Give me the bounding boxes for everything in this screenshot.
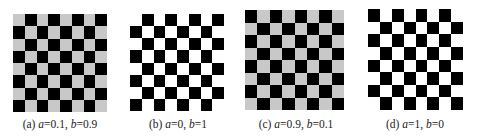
board-cell [392,85,404,98]
board-cell [439,60,451,73]
board-cell [48,26,60,38]
board-cell [416,72,428,85]
board-cell [270,60,282,73]
board-cell [212,75,224,87]
board-cell [201,87,213,99]
board-cell [201,63,213,75]
board-cell [177,14,189,26]
board-cell [332,23,344,36]
board-cell [332,98,344,111]
board-cell [72,75,84,87]
board-cell [392,22,404,35]
caption-d: (d) a=1, b=0 [365,118,465,130]
board-cell [295,10,307,23]
board-cell [307,73,319,86]
board-cell [368,72,380,85]
board-cell [48,88,60,100]
board-cell [404,34,416,47]
board-cell [416,97,428,110]
board-cell [37,14,49,26]
board-cell [13,14,25,26]
board-cell [319,23,331,36]
board-cell [295,98,307,111]
board-cell [451,60,463,73]
board-cell [368,47,380,60]
board-cell [177,87,189,99]
board-cell [154,63,166,75]
board-cell [154,87,166,99]
board-cell [95,14,107,26]
b-value: =0.1 [312,118,333,130]
board-cell [451,72,463,85]
board-cell [95,100,107,112]
board-cell [319,10,331,23]
board-cell [212,99,224,111]
board-cell [439,97,451,110]
board-cell [257,48,269,61]
board-cell [439,22,451,35]
board-cell [201,38,213,50]
board-cell [307,85,319,98]
board-cell [189,75,201,87]
a-value: =0.9, [280,118,307,130]
board-cell [177,26,189,38]
board-cell [201,99,213,111]
board-cell [212,14,224,26]
board-cell [307,98,319,111]
board-cell [380,85,392,98]
board-cell [380,9,392,22]
board-cell [270,23,282,36]
board-cell [270,35,282,48]
board-cell [416,47,428,60]
board-cell [25,63,37,75]
board-cell [257,60,269,73]
board-cell [332,60,344,73]
board-cell [245,98,257,111]
board-cell [257,85,269,98]
board-cell [295,73,307,86]
board-cell [37,100,49,112]
board-cell [165,50,177,62]
board-cell [368,34,380,47]
board-cell [245,48,257,61]
board-cell [72,88,84,100]
board-cell [332,48,344,61]
board-cell [37,39,49,51]
board-cell [13,100,25,112]
board-cell [439,9,451,22]
board-cell [130,38,142,50]
board-cell [72,100,84,112]
board-cell [245,85,257,98]
board-cell [84,39,96,51]
b-value: =1 [195,118,207,130]
board-cell [154,50,166,62]
board-cell [25,88,37,100]
board-cell [332,85,344,98]
board-cell [451,47,463,60]
board-cell [295,35,307,48]
board-cell [282,48,294,61]
board-cell [404,22,416,35]
board-cell [392,34,404,47]
caption-b: (b) a=0, b=1 [128,118,228,130]
board-cell [154,14,166,26]
board-cell [37,51,49,63]
board-cell [257,35,269,48]
board-cell [257,73,269,86]
board-cell [307,48,319,61]
b-value: =0.9 [76,118,97,130]
a-value: =1, [408,118,426,130]
board-cell [282,73,294,86]
board-cell [295,60,307,73]
board-cell [212,26,224,38]
board-cell [392,72,404,85]
board-cell [201,50,213,62]
board-cell [427,72,439,85]
board-cell [307,23,319,36]
board-cell [84,14,96,26]
board-cell [451,97,463,110]
board-cell [332,10,344,23]
board-cell [189,26,201,38]
board-cell [154,75,166,87]
board-cell [13,39,25,51]
